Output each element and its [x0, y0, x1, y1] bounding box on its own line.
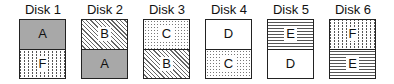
- disk-label: Disk 1: [19, 2, 67, 18]
- block-c: C: [206, 49, 251, 79]
- disk-label: Disk 3: [143, 2, 191, 18]
- block-f: F: [20, 49, 65, 79]
- block-label: D: [222, 27, 235, 41]
- block-a: A: [82, 49, 127, 79]
- block-b: B: [82, 20, 127, 49]
- disk-box: AF: [19, 19, 66, 79]
- block-label: D: [284, 57, 297, 71]
- block-label: A: [98, 57, 111, 71]
- block-label: C: [222, 57, 235, 71]
- block-label: F: [37, 57, 49, 71]
- disk-3: Disk 3CB: [143, 2, 191, 79]
- block-f: F: [330, 20, 375, 49]
- block-a: A: [20, 20, 65, 49]
- disk-4: Disk 4DC: [205, 2, 253, 79]
- disk-label: Disk 6: [329, 2, 377, 18]
- block-d: D: [206, 20, 251, 49]
- block-b: B: [144, 49, 189, 79]
- disk-box: CB: [143, 19, 190, 79]
- disk-box: DC: [205, 19, 252, 79]
- block-label: C: [160, 27, 173, 41]
- block-label: E: [284, 27, 297, 41]
- block-c: C: [144, 20, 189, 49]
- block-e: E: [330, 49, 375, 79]
- disk-box: FE: [329, 19, 376, 79]
- block-d: D: [268, 49, 313, 79]
- disk-box: BA: [81, 19, 128, 79]
- disk-label: Disk 2: [81, 2, 129, 18]
- block-label: B: [98, 27, 111, 41]
- disk-6: Disk 6FE: [329, 2, 377, 79]
- block-label: A: [36, 27, 49, 41]
- disk-box: ED: [267, 19, 314, 79]
- disk-5: Disk 5ED: [267, 2, 315, 79]
- disk-label: Disk 4: [205, 2, 253, 18]
- disk-1: Disk 1AF: [19, 2, 67, 79]
- block-label: F: [347, 27, 359, 41]
- disk-label: Disk 5: [267, 2, 315, 18]
- block-e: E: [268, 20, 313, 49]
- disk-2: Disk 2BA: [81, 2, 129, 79]
- block-label: B: [160, 57, 173, 71]
- block-label: E: [346, 57, 359, 71]
